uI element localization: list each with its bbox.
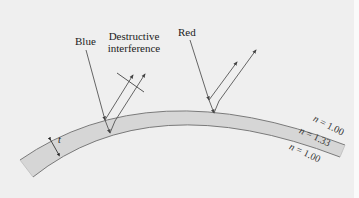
red-refracted-ray <box>209 100 214 113</box>
red-reflected-ray-2 <box>219 50 256 101</box>
red-inner-reflection <box>214 101 219 113</box>
red-incident-ray <box>190 40 209 100</box>
blue-incident-ray <box>86 50 105 120</box>
destructive-interference-label: Destructive interference <box>104 30 164 54</box>
red-rays <box>190 40 256 113</box>
red-reflected-ray-1 <box>209 62 237 100</box>
blue-label: Blue <box>75 35 96 47</box>
destructive-line-2: interference <box>104 42 164 54</box>
red-label: Red <box>178 26 196 38</box>
thickness-label: t <box>58 134 61 146</box>
destructive-line-1: Destructive <box>104 30 164 42</box>
